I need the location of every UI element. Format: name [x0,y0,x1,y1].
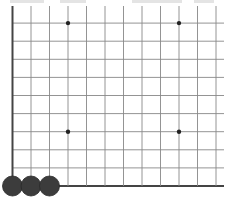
board-grid [13,6,225,186]
black-stone[interactable] [21,176,41,196]
go-board[interactable] [0,0,228,198]
star-point-icon [66,130,70,134]
star-point-icon [177,21,181,25]
star-point-icon [177,130,181,134]
black-stone[interactable] [3,176,23,196]
black-stone[interactable] [40,176,60,196]
stones [3,176,60,196]
star-point-icon [66,21,70,25]
